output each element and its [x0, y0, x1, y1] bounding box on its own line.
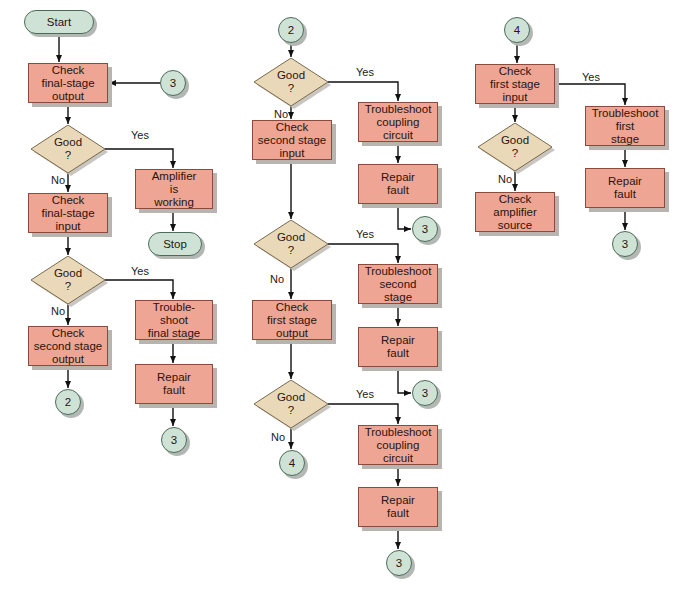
decision-diamond-c1-dec2: Good ? — [31, 256, 105, 304]
connector-circle-c2-conn3b: 3 — [412, 380, 438, 406]
yes-branch-label: Yes — [356, 228, 374, 240]
node-label: Repair fault — [381, 334, 415, 360]
no-branch-label: No — [271, 431, 285, 443]
node-label: Repair fault — [381, 171, 415, 197]
node-label: Check first stage input — [490, 65, 540, 104]
process-box-c2-ts-coup1: Troubleshoot coupling circuit — [358, 102, 438, 142]
process-box-c3-ts-first: Troubleshoot first stage — [585, 106, 665, 146]
connector-circle-c1-conn3-in: 3 — [160, 70, 186, 96]
node-label: Check first stage output — [267, 301, 317, 340]
node-label: Troubleshoot second stage — [365, 265, 432, 304]
connector-circle-c1-conn3-out: 3 — [161, 427, 187, 453]
node-label: Check final-stage input — [41, 194, 94, 233]
decision-diamond-c2-dec1: Good ? — [254, 58, 328, 106]
terminal-node-start: Start — [24, 10, 94, 34]
node-label: 3 — [422, 387, 428, 400]
yes-branch-label: Yes — [582, 71, 600, 83]
node-label: Repair fault — [381, 494, 415, 520]
node-label: 4 — [289, 457, 295, 470]
node-label: Troubleshoot coupling circuit — [365, 426, 432, 465]
process-box-c2-check-1out: Check first stage output — [252, 300, 332, 340]
process-box-c2-ts-coup2: Troubleshoot coupling circuit — [358, 425, 438, 465]
no-branch-label: No — [51, 174, 65, 186]
node-label: Troubleshoot first stage — [592, 107, 659, 146]
node-label: Repair fault — [157, 371, 191, 397]
no-branch-label: No — [270, 273, 284, 285]
process-box-c3-check-1in: Check first stage input — [475, 64, 555, 104]
node-label: Good ? — [277, 231, 305, 257]
no-branch-label: No — [498, 173, 512, 185]
node-label: Stop — [163, 238, 187, 251]
process-box-amp-working: Amplifier is working — [135, 169, 213, 209]
node-label: Troubleshoot coupling circuit — [365, 103, 432, 142]
process-box-c1-check-in: Check final-stage input — [28, 193, 108, 233]
connector-circle-c2-conn3c: 3 — [386, 550, 412, 576]
node-label: 3 — [171, 434, 177, 447]
decision-diamond-c1-dec1: Good ? — [31, 125, 105, 173]
no-branch-label: No — [274, 108, 288, 120]
node-label: 2 — [288, 24, 294, 37]
node-label: 3 — [622, 238, 628, 251]
decision-diamond-c3-dec: Good ? — [478, 123, 552, 171]
node-label: Good ? — [277, 391, 305, 417]
yes-branch-label: Yes — [131, 129, 149, 141]
yes-branch-label: Yes — [356, 66, 374, 78]
node-label: Good ? — [501, 134, 529, 160]
process-box-c1-check-out: Check final-stage output — [28, 63, 108, 103]
troubleshooting-flowchart: StartCheck final-stage output3Good ?Ampl… — [0, 0, 688, 596]
connector-circle-c1-conn2: 2 — [55, 389, 81, 415]
connector-circle-c3-conn3: 3 — [612, 231, 638, 257]
node-label: Good ? — [277, 69, 305, 95]
node-label: Repair fault — [608, 175, 642, 201]
connector-circle-c2-conn2: 2 — [278, 17, 304, 43]
connector-circle-c3-conn4: 4 — [504, 17, 530, 43]
decision-diamond-c2-dec2: Good ? — [254, 220, 328, 268]
node-label: 3 — [396, 557, 402, 570]
connector-circle-c2-conn4: 4 — [279, 450, 305, 476]
node-label: Check second stage output — [34, 327, 102, 366]
node-label: Trouble- shoot final stage — [148, 301, 200, 340]
yes-branch-label: Yes — [356, 388, 374, 400]
node-label: 3 — [170, 77, 176, 90]
process-box-c2-repair2: Repair fault — [358, 327, 438, 367]
node-label: 3 — [422, 223, 428, 236]
node-label: Amplifier is working — [152, 170, 197, 209]
process-box-c2-ts-second: Troubleshoot second stage — [358, 264, 438, 304]
yes-branch-label: Yes — [131, 265, 149, 277]
process-box-ts-final: Trouble- shoot final stage — [135, 300, 213, 340]
node-label: Check amplifier source — [493, 193, 536, 232]
process-box-c2-repair1: Repair fault — [358, 164, 438, 204]
decision-diamond-c2-dec3: Good ? — [254, 380, 328, 428]
node-label: Good ? — [54, 267, 82, 293]
process-box-c3-check-src: Check amplifier source — [475, 192, 555, 232]
connector-circle-c2-conn3a: 3 — [412, 216, 438, 242]
node-label: Check second stage input — [258, 121, 326, 160]
process-box-c2-check-2in: Check second stage input — [252, 120, 332, 160]
terminal-node-stop: Stop — [148, 232, 202, 256]
no-branch-label: No — [51, 305, 65, 317]
node-label: 2 — [65, 396, 71, 409]
node-label: Check final-stage output — [41, 64, 94, 103]
node-label: Start — [47, 16, 71, 29]
node-label: 4 — [514, 24, 520, 37]
node-label: Good ? — [54, 136, 82, 162]
process-box-c3-repair: Repair fault — [585, 168, 665, 208]
process-box-c2-repair3: Repair fault — [358, 487, 438, 527]
process-box-c1-check-2out: Check second stage output — [28, 326, 108, 366]
process-box-c1-repair: Repair fault — [135, 364, 213, 404]
